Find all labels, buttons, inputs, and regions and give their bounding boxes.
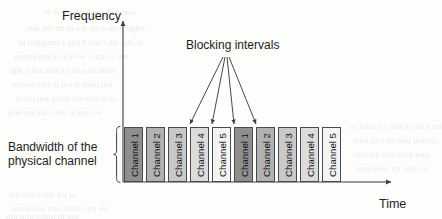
channel-bar[interactable]: Channel 1 <box>124 127 143 182</box>
blocking-intervals-label: Blocking intervals <box>186 38 279 52</box>
bandwidth-label-line-1: Bandwidth of the <box>8 140 112 154</box>
bandwidth-label-line-2: physical channel <box>8 154 112 168</box>
channel-bar[interactable]: Channel 3 <box>168 127 187 182</box>
bandwidth-brace <box>114 127 120 183</box>
channel-bar[interactable]: Channel 4 <box>190 127 209 182</box>
channel-bar-label: Channel 1 <box>238 133 249 177</box>
channel-bar-label: Channel 5 <box>216 133 227 177</box>
channel-bar-label: Channel 4 <box>304 133 315 177</box>
channel-bar-label: Channel 5 <box>326 133 337 177</box>
y-axis-label: Frequency <box>62 9 121 23</box>
channel-bar[interactable]: Channel 5 <box>322 127 341 182</box>
channel-bar[interactable]: Channel 2 <box>256 127 275 182</box>
channel-bar-label: Channel 2 <box>150 133 161 177</box>
channel-bar[interactable]: Channel 4 <box>300 127 319 182</box>
channel-bar-label: Channel 2 <box>260 133 271 177</box>
blocking-interval-arrows <box>190 57 256 124</box>
x-axis-label: Time <box>379 197 406 211</box>
channel-bar-label: Channel 1 <box>128 133 139 177</box>
channel-bar[interactable]: Channel 3 <box>278 127 297 182</box>
channel-bar[interactable]: Channel 1 <box>234 127 253 182</box>
channel-bar[interactable]: Channel 2 <box>146 127 165 182</box>
channel-bar-label: Channel 3 <box>282 133 293 177</box>
channel-bar-label: Channel 3 <box>172 133 183 177</box>
bandwidth-label: Bandwidth of the physical channel <box>8 140 112 168</box>
channel-bar[interactable]: Channel 5 <box>212 127 231 182</box>
channel-bar-label: Channel 4 <box>194 133 205 177</box>
